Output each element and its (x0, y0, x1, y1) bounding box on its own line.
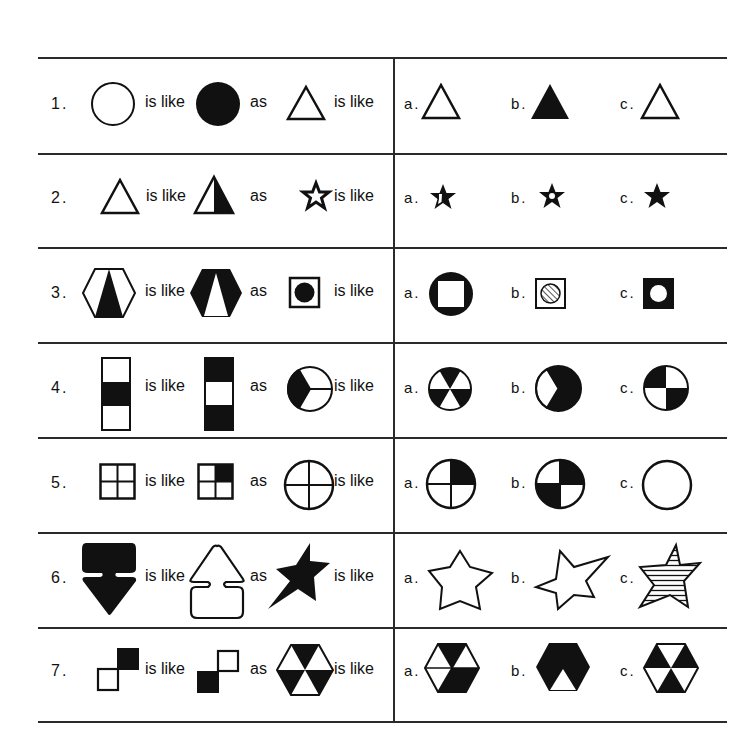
question-number: 4. (51, 379, 68, 397)
bar-black-white-black-icon (204, 357, 234, 431)
connector-text: is like (334, 93, 374, 111)
circle-thirds-icon (286, 365, 334, 413)
connector-text: as (250, 567, 267, 585)
question-row-5: 5. is like as is like a. b. c. (38, 437, 727, 532)
black-down-arrow-icon (80, 541, 138, 616)
option-b-filled-triangle-icon[interactable] (530, 83, 570, 120)
connector-text: is like (145, 377, 185, 395)
option-label[interactable]: a. (404, 379, 421, 396)
option-label[interactable]: a. (404, 95, 421, 112)
square-black-circle-icon (289, 277, 321, 309)
option-label[interactable]: a. (404, 662, 421, 679)
outlined-up-arrow-icon (188, 544, 246, 620)
option-b-tilted-outlined-star-icon[interactable] (534, 549, 610, 611)
connector-text: as (250, 660, 267, 678)
connector-text: is like (146, 187, 186, 205)
option-c-empty-circle-icon[interactable] (642, 459, 692, 511)
connector-text: is like (334, 660, 374, 678)
connector-text: is like (145, 282, 185, 300)
connector-text: is like (334, 377, 374, 395)
option-a-hexagon-mixed-icon[interactable] (424, 643, 480, 693)
question-number: 6. (51, 569, 68, 587)
question-number: 1. (51, 95, 68, 113)
option-c-circle-quarters-icon[interactable] (643, 365, 689, 411)
option-label[interactable]: c. (620, 95, 636, 112)
option-b-circle-two-quarters-black-icon[interactable] (535, 458, 585, 510)
option-b-circle-white-wedge-icon[interactable] (535, 365, 582, 412)
connector-text: is like (145, 567, 185, 585)
connector-text: as (250, 93, 267, 111)
option-c-empty-triangle-icon[interactable] (640, 83, 680, 120)
question-row-7: 7. is like as is like a. b. c. (38, 627, 727, 722)
option-a-circle-one-quarter-black-icon[interactable] (426, 458, 476, 510)
option-label[interactable]: c. (620, 569, 636, 586)
hexagon-white-triangle-icon (188, 267, 244, 319)
option-label[interactable]: c. (620, 474, 636, 491)
connector-text: as (250, 377, 267, 395)
option-label[interactable]: b. (511, 474, 528, 491)
diagonal-squares-top-black-icon (96, 647, 141, 692)
connector-text: is like (334, 282, 374, 300)
question-number: 3. (51, 284, 68, 302)
diagonal-squares-bottom-black-icon (196, 649, 241, 694)
question-row-2: 2. is like as is like a. b. c. (38, 153, 727, 248)
option-c-hexagon-alternating-icon[interactable] (643, 643, 699, 693)
option-a-circle-sixths-icon[interactable] (428, 367, 472, 411)
connector-text: as (250, 282, 267, 300)
empty-triangle-icon (286, 85, 326, 121)
bar-white-black-white-icon (101, 357, 131, 431)
connector-text: is like (145, 93, 185, 111)
option-label[interactable]: a. (404, 569, 421, 586)
half-filled-triangle-icon (193, 175, 235, 215)
option-label[interactable]: b. (511, 95, 528, 112)
option-label[interactable]: b. (511, 569, 528, 586)
option-a-empty-triangle-icon[interactable] (421, 83, 461, 120)
option-a-circle-white-square-icon[interactable] (428, 271, 474, 317)
tilted-black-star-icon (268, 543, 330, 611)
connector-text: is like (334, 567, 374, 585)
question-number: 7. (51, 662, 68, 680)
option-label[interactable]: c. (620, 379, 636, 396)
option-b-black-hexagon-icon[interactable] (535, 642, 591, 692)
connector-text: is like (145, 472, 185, 490)
question-row-3: 3. is like as is like a. b. c. (38, 247, 727, 342)
option-label[interactable]: b. (511, 662, 528, 679)
option-a-outlined-star-icon[interactable] (428, 549, 494, 611)
question-row-6: 6. is like as is like a. b. c. (38, 532, 727, 627)
question-row-4: 4. is like as is like a. b. c. (38, 342, 727, 437)
quartered-square-one-black-icon (197, 463, 234, 500)
option-label[interactable]: a. (404, 284, 421, 301)
connector-text: as (250, 472, 267, 490)
option-label[interactable]: a. (404, 474, 421, 491)
connector-text: is like (145, 660, 185, 678)
option-a-half-star-icon[interactable] (428, 182, 458, 212)
quartered-square-icon (99, 463, 136, 500)
connector-text: is like (334, 472, 374, 490)
option-label[interactable]: c. (620, 189, 636, 206)
question-row-1: 1. is like as is like a. b. c. (38, 57, 727, 152)
connector-text: is like (334, 187, 374, 205)
option-label[interactable]: a. (404, 189, 421, 206)
question-number: 5. (51, 474, 68, 492)
empty-circle-icon (90, 81, 136, 127)
option-c-black-square-white-circle-icon[interactable] (643, 278, 674, 309)
filled-circle-icon (195, 81, 241, 127)
outlined-star-icon (301, 181, 331, 211)
question-number: 2. (51, 189, 68, 207)
option-label[interactable]: b. (511, 189, 528, 206)
connector-text: as (250, 187, 267, 205)
option-c-filled-star-icon[interactable] (642, 181, 672, 211)
quartered-circle-icon (283, 459, 335, 511)
option-label[interactable]: b. (511, 379, 528, 396)
option-c-striped-star-icon[interactable] (638, 543, 702, 611)
hexagon-black-triangle-icon (81, 267, 137, 319)
option-label[interactable]: b. (511, 284, 528, 301)
option-label[interactable]: c. (620, 662, 636, 679)
hexagon-alternating-triangles-icon (276, 644, 334, 696)
option-label[interactable]: c. (620, 284, 636, 301)
empty-triangle-icon (100, 178, 140, 215)
option-b-hatched-circle-square-icon[interactable] (535, 278, 566, 309)
option-b-star-with-dot-icon[interactable] (537, 181, 567, 211)
